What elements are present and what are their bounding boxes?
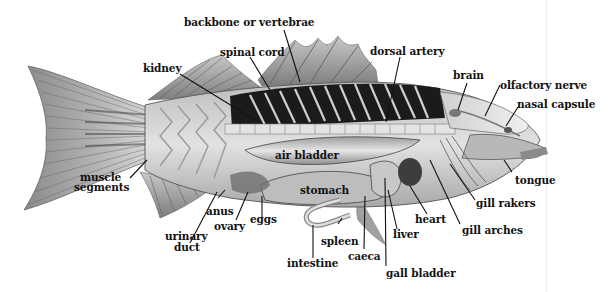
label-tongue: tongue — [515, 175, 556, 186]
label-olfactory-nerve: olfactory nerve — [500, 80, 587, 91]
label-eggs: eggs — [250, 214, 277, 225]
label-stomach: stomach — [300, 185, 349, 196]
label-heart: heart — [415, 214, 446, 225]
vertebral-column — [225, 124, 455, 134]
label-brain: brain — [453, 70, 484, 81]
label-caeca: caeca — [348, 251, 381, 262]
label-ovary: ovary — [214, 221, 245, 232]
label-dorsal-artery: dorsal artery — [370, 46, 444, 57]
label-gill-arches: gill arches — [462, 225, 523, 236]
label-anus: anus — [206, 206, 234, 217]
label-nasal-capsule: nasal capsule — [517, 99, 595, 110]
fish-anatomy-diagram: backbone or vertebrae spinal cord kidney… — [0, 0, 611, 292]
dorsal-fin-spiny — [258, 36, 378, 86]
label-muscle-segments-2: segments — [74, 182, 129, 193]
label-spleen: spleen — [321, 236, 359, 247]
label-backbone: backbone or vertebrae — [184, 17, 314, 28]
label-intestine: intestine — [287, 258, 338, 269]
label-gill-rakers: gill rakers — [476, 198, 536, 209]
label-urinary-duct-2: duct — [174, 242, 200, 253]
label-kidney: kidney — [143, 63, 181, 74]
label-liver: liver — [393, 229, 419, 240]
label-spinal-cord: spinal cord — [220, 47, 285, 58]
fish-illustration — [0, 0, 611, 292]
label-air-bladder: air bladder — [275, 150, 339, 161]
label-gall-bladder: gall bladder — [386, 268, 456, 279]
